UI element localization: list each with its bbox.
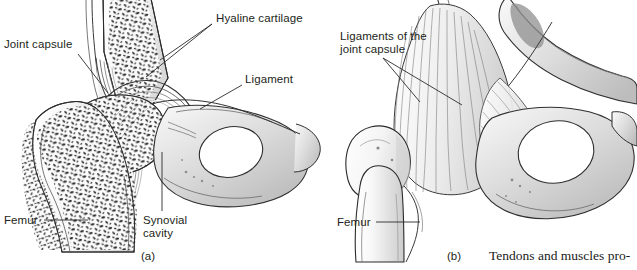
panel-letter-b: (b) xyxy=(447,250,461,262)
panel-letter-a: (a) xyxy=(141,250,155,262)
leader-hyaline-1 xyxy=(160,24,212,60)
figure-artwork xyxy=(0,0,637,270)
label-ligaments-of-joint-capsule: Ligaments of the joint capsule xyxy=(340,30,427,56)
leader-ligament xyxy=(200,85,242,109)
femur-shaft-b xyxy=(355,166,404,262)
label-joint-capsule: Joint capsule xyxy=(4,38,72,51)
label-femur-b: Femur xyxy=(337,216,371,229)
hip-joint-figure: Joint capsule Hyaline cartilage Ligament… xyxy=(0,0,637,270)
pelvis-b xyxy=(476,107,637,219)
ilium-section-a xyxy=(103,0,168,106)
label-synovial-cavity: Synovial cavity xyxy=(143,214,187,240)
label-hyaline-cartilage: Hyaline cartilage xyxy=(216,12,303,25)
label-femur-a: Femur xyxy=(4,214,38,227)
leader-joint-capsule xyxy=(78,54,108,93)
body-text-caption: Tendons and muscles pro- xyxy=(489,248,630,264)
pelvis-a xyxy=(154,105,321,207)
label-ligament: Ligament xyxy=(245,73,293,86)
